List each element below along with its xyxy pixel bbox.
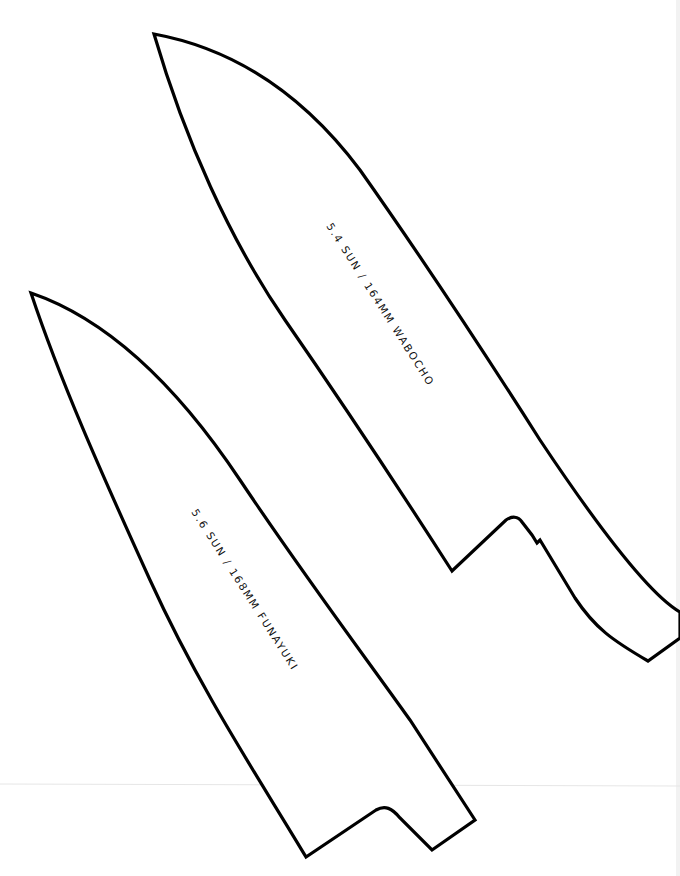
knife-template-sheet: 5.4 SUN / 164MM WABOCHO 5.6 SUN / 168MM … [0,0,680,876]
right-edge-shadow [676,0,680,876]
